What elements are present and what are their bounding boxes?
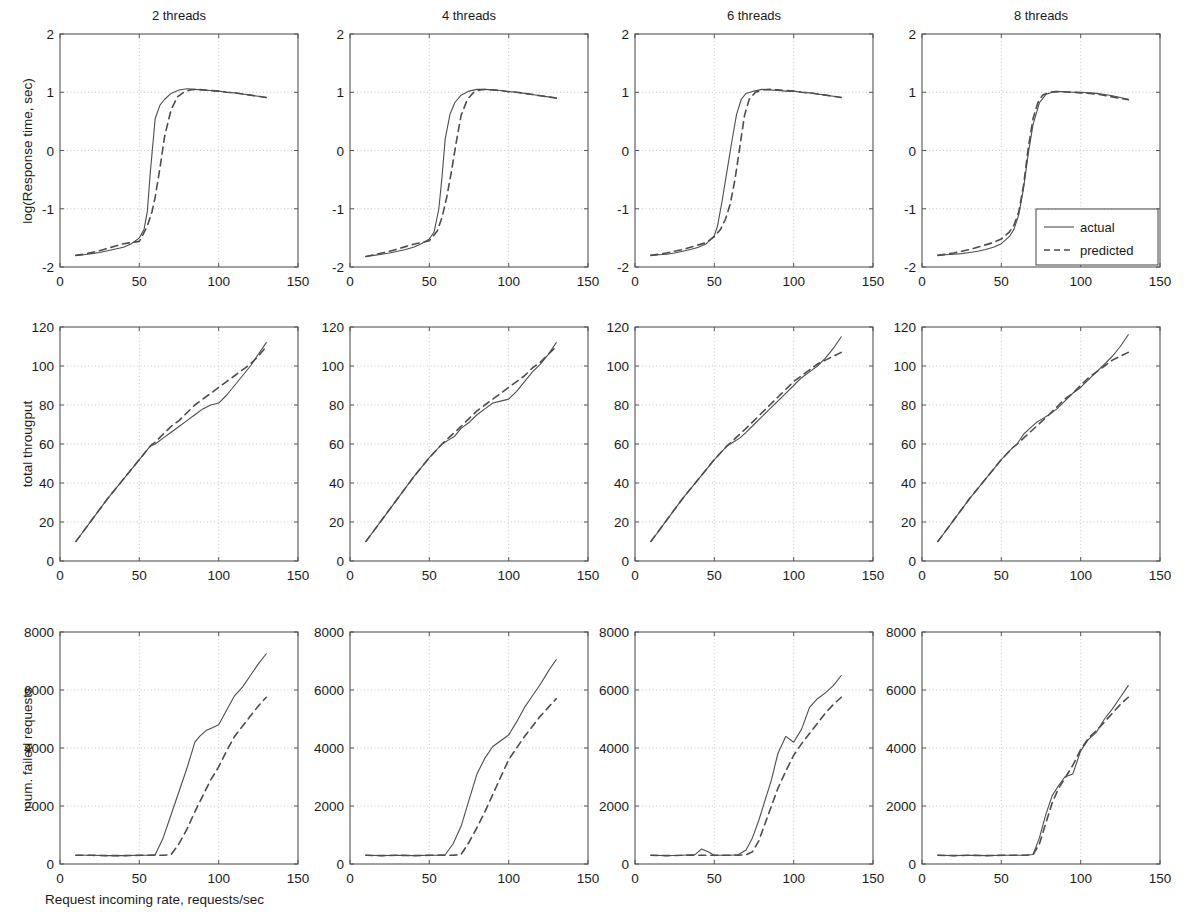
x-tick-label: 0 (631, 871, 639, 886)
x-tick-label: 50 (707, 871, 722, 886)
legend-label-actual: actual (1080, 220, 1115, 235)
x-tick-label: 50 (994, 871, 1009, 886)
x-tick-label: 50 (707, 274, 722, 289)
series-predicted (366, 89, 556, 256)
x-tick-label: 0 (918, 871, 926, 886)
y-tick-label: -2 (42, 260, 54, 275)
y-tick-label: 40 (901, 476, 916, 491)
series-predicted (366, 347, 556, 542)
y-tick-label: 4000 (599, 741, 629, 756)
y-tick-label: 2000 (314, 799, 344, 814)
x-tick-label: 0 (631, 568, 639, 583)
y-tick-label: 1 (908, 85, 916, 100)
multi-panel-chart-figure: 2 threads4 threads6 threads8 threads0501… (0, 0, 1193, 912)
y-tick-label: 4000 (314, 741, 344, 756)
x-tick-label: 0 (346, 871, 354, 886)
y-tick-label: -2 (332, 260, 344, 275)
series-actual (76, 654, 266, 856)
series-actual (938, 335, 1128, 542)
y-tick-label: 40 (329, 476, 344, 491)
x-tick-label: 50 (132, 568, 147, 583)
y-tick-label: 0 (46, 144, 54, 159)
y-tick-label: -2 (904, 260, 916, 275)
y-tick-label: 2 (46, 27, 54, 42)
series-predicted (938, 352, 1128, 541)
x-tick-label: 100 (1069, 568, 1092, 583)
x-tick-label: 100 (207, 871, 230, 886)
y-tick-label: 1 (336, 85, 344, 100)
y-tick-label: 100 (893, 359, 916, 374)
x-tick-label: 150 (1149, 274, 1172, 289)
series-actual (938, 686, 1128, 856)
series-predicted (76, 697, 266, 855)
series-predicted (366, 699, 556, 856)
panel-r1-c1: 050100150-2-1012 (2, 20, 340, 299)
x-tick-label: 0 (56, 274, 64, 289)
panel-r2-c1: 050100150020406080100120 (2, 313, 340, 593)
ylabel-failed-requests: num. failed requests (20, 687, 35, 809)
panel-r3-c1: 05010015002000400060008000 (2, 618, 340, 896)
y-tick-label: 100 (606, 359, 629, 374)
series-actual (651, 337, 841, 542)
x-tick-label: 150 (1149, 568, 1172, 583)
y-tick-label: 2000 (599, 799, 629, 814)
y-tick-label: -1 (42, 202, 54, 217)
x-tick-label: 100 (1069, 274, 1092, 289)
y-tick-label: 120 (321, 320, 344, 335)
x-tick-label: 150 (1149, 871, 1172, 886)
y-tick-label: -1 (617, 202, 629, 217)
y-tick-label: 0 (46, 857, 54, 872)
x-tick-label: 100 (1069, 871, 1092, 886)
y-tick-label: 80 (329, 398, 344, 413)
y-tick-label: 60 (614, 437, 629, 452)
y-tick-label: 80 (39, 398, 54, 413)
ylabel-total-througput: total througput (20, 401, 35, 487)
x-tick-label: 0 (56, 568, 64, 583)
xlabel-request-rate: Request incoming rate, requests/sec (45, 892, 264, 907)
y-tick-label: 8000 (599, 625, 629, 640)
y-tick-label: 2 (621, 27, 629, 42)
y-tick-label: 120 (606, 320, 629, 335)
x-tick-label: 100 (782, 568, 805, 583)
x-tick-label: 50 (994, 568, 1009, 583)
y-tick-label: 0 (336, 144, 344, 159)
y-tick-label: 60 (39, 437, 54, 452)
y-tick-label: 0 (908, 857, 916, 872)
y-tick-label: 6000 (314, 683, 344, 698)
y-tick-label: 80 (614, 398, 629, 413)
y-tick-label: 20 (901, 515, 916, 530)
y-tick-label: 120 (893, 320, 916, 335)
x-tick-label: 50 (132, 871, 147, 886)
y-tick-label: 0 (908, 554, 916, 569)
x-tick-label: 50 (422, 871, 437, 886)
series-actual (366, 660, 556, 856)
y-tick-label: 0 (621, 554, 629, 569)
y-tick-label: 2 (908, 27, 916, 42)
x-tick-label: 0 (346, 568, 354, 583)
y-tick-label: 6000 (886, 683, 916, 698)
panel-r1-c4: 050100150-2-1012actualpredicted (864, 20, 1193, 299)
y-tick-label: 2 (336, 27, 344, 42)
panel-r3-c4: 05010015002000400060008000 (864, 618, 1193, 896)
y-tick-label: 100 (31, 359, 54, 374)
y-tick-label: 40 (614, 476, 629, 491)
y-tick-label: 8000 (24, 625, 54, 640)
x-tick-label: 100 (782, 274, 805, 289)
series-predicted (651, 89, 841, 255)
x-tick-label: 100 (207, 568, 230, 583)
ylabel-response-time: log(Response time, sec) (20, 78, 35, 224)
y-tick-label: 2000 (886, 799, 916, 814)
y-tick-label: 8000 (886, 625, 916, 640)
y-tick-label: 20 (329, 515, 344, 530)
series-predicted (938, 697, 1128, 855)
y-tick-label: 4000 (886, 741, 916, 756)
x-tick-label: 50 (422, 568, 437, 583)
y-tick-label: 80 (901, 398, 916, 413)
y-tick-label: 0 (46, 554, 54, 569)
series-predicted (76, 347, 266, 542)
x-tick-label: 50 (132, 274, 147, 289)
y-tick-label: -2 (617, 260, 629, 275)
x-tick-label: 100 (497, 568, 520, 583)
x-tick-label: 100 (497, 871, 520, 886)
series-actual (651, 89, 841, 255)
